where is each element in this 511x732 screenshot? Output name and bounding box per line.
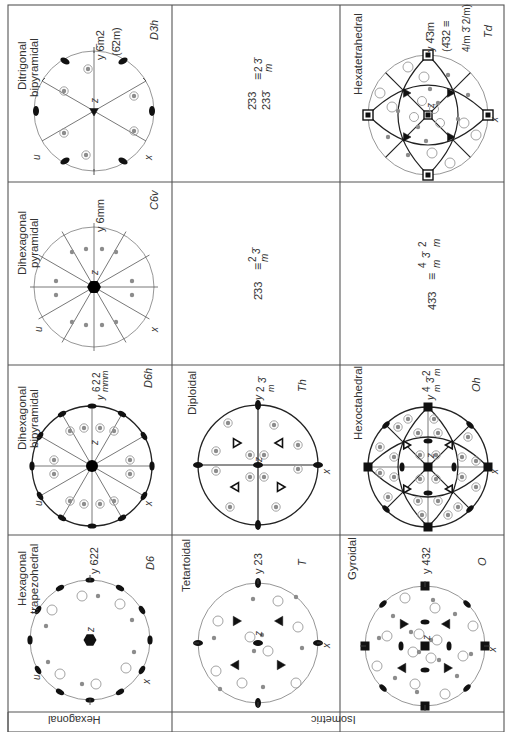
face-pole-dot [300, 646, 304, 650]
axis-label-x: x [141, 678, 152, 685]
threefold-axis-icon [277, 660, 285, 670]
twofold-axis-icon [137, 605, 146, 615]
face-pole-dot [128, 458, 132, 462]
face-pole-dot [396, 425, 400, 429]
axis-label-z: z [253, 631, 264, 637]
face-pole-dot [296, 467, 300, 471]
face-pole-dot [434, 477, 438, 481]
face-pole-dot [416, 499, 420, 503]
face-pole-dot [466, 435, 470, 439]
face-pole-open [458, 651, 468, 661]
threefold-axis-icon [275, 616, 283, 626]
face-pole-dot [456, 117, 460, 121]
face-pole-open [387, 102, 397, 112]
twofold-axis-icon [139, 491, 148, 501]
twofold-axis-icon [36, 491, 45, 501]
face-pole-open [410, 113, 419, 122]
face-pole-dot [114, 320, 118, 324]
face-pole-dot [68, 499, 72, 503]
face-pole-dot [432, 417, 436, 421]
equation-text: 233̄ [260, 90, 272, 110]
face-pole-dot [424, 139, 428, 143]
face-pole-dot [98, 426, 102, 430]
class-name: pyramidal [28, 218, 40, 268]
face-pole-dot [112, 429, 116, 433]
face-pole-dot [431, 598, 435, 602]
face-pole-open [410, 679, 420, 689]
axis-label-z: z [425, 103, 436, 109]
equation-text: 3̄ [253, 56, 264, 64]
face-pole-dot [214, 469, 218, 473]
face-pole-dot [453, 612, 457, 616]
hm-symbol: y [253, 394, 264, 401]
twofold-axis-icon [34, 665, 43, 675]
face-pole-open [91, 679, 101, 689]
twofold-axis-icon [421, 620, 430, 625]
schoenflies-symbol: C6v [148, 189, 160, 210]
face-pole-open [273, 596, 283, 606]
fourfold-axis-icon [421, 642, 430, 651]
axis-label-z: z [89, 98, 100, 104]
face-pole-dot [228, 505, 232, 509]
face-pole-open [291, 678, 301, 688]
face-pole-dot [474, 459, 478, 463]
face-pole-dot [274, 505, 278, 509]
face-pole-dot [392, 475, 396, 479]
face-pole-dot [132, 650, 136, 654]
face-pole-dot [436, 101, 440, 105]
face-pole-dot [112, 499, 116, 503]
schoenflies-symbol: T [296, 558, 308, 566]
face-pole-dot [262, 475, 266, 479]
axis-label-u: u [33, 326, 44, 332]
face-pole-dot [114, 250, 118, 254]
twofold-axis-icon [59, 156, 71, 166]
threefold-axis-icon [442, 619, 450, 629]
face-pole-dot [82, 426, 86, 430]
class-name: Hexagonal [16, 551, 28, 606]
twofold-axis-icon [255, 400, 261, 410]
crystal-class-table: Ditrigonalbipyramidaly 6̄m2(6̄2m)D3huzx2… [0, 0, 511, 732]
equation-text: 3̄ [251, 246, 262, 254]
hm-symbol: m [432, 384, 442, 392]
axis-label-x: x [489, 116, 500, 123]
face-pole-dot [406, 417, 410, 421]
face-pole-dot [251, 597, 255, 601]
hm-symbol: y 6̄m2 [94, 30, 106, 60]
face-pole-dot [386, 495, 390, 499]
face-pole-dot [418, 453, 422, 457]
class-name: Gyroidal [346, 537, 358, 580]
face-pole-dot [392, 455, 396, 459]
face-pole-dot [100, 323, 104, 327]
twofold-axis-icon [447, 642, 452, 651]
face-pole-dot [68, 429, 72, 433]
hm-symbol: 2 [255, 386, 266, 392]
hm-symbol: 3̄ [257, 375, 268, 383]
face-pole-dot [393, 676, 397, 680]
face-pole-dot [406, 153, 410, 157]
face-pole-dot [420, 513, 424, 517]
hm-symbol-alt: 4/m 3̄ 2/m) [461, 4, 472, 52]
threefold-axis-icon [231, 483, 239, 492]
row-label-isometric: Isometric [311, 714, 356, 726]
face-pole-dot [378, 445, 382, 449]
schoenflies-symbol: D3h [148, 20, 160, 40]
axis-label-x: x [149, 326, 160, 333]
axis-label-u: u [31, 154, 42, 160]
hm-symbol: 4 [421, 386, 432, 392]
twofold-axis-icon [421, 668, 430, 673]
twofold-axis-icon [313, 462, 323, 468]
equation-text: m [431, 239, 442, 247]
face-pole-dot [378, 471, 382, 475]
class-name: Diploidal [186, 371, 198, 415]
equation-text: 2̄33 [252, 282, 264, 300]
twofold-axis-icon [29, 462, 34, 471]
axis-label-x: x [143, 154, 154, 161]
face-pole-dot [84, 153, 88, 157]
face-pole-open [211, 666, 221, 676]
face-pole-open [400, 593, 410, 603]
face-pole-dot [436, 499, 440, 503]
face-pole-open [419, 72, 429, 82]
face-pole-dot [391, 614, 395, 618]
axis-label-z: z [89, 270, 100, 276]
axis-label-x: x [489, 468, 500, 475]
